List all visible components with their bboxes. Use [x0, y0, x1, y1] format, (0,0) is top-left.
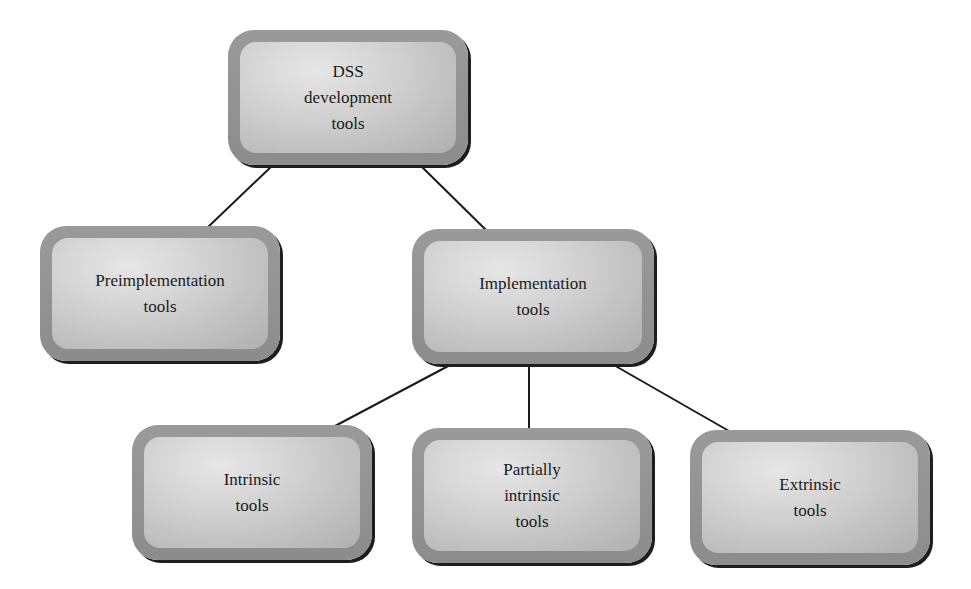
node-preimplementation-tools: Preimplementation tools [40, 226, 280, 361]
node-label: Extrinsic tools [702, 442, 918, 553]
edge-root-preimplementation [207, 165, 273, 228]
tree-diagram: DSS development tools Preimplementation … [0, 0, 971, 589]
label-line: tools [515, 509, 548, 535]
edge-implementation-extrinsic [612, 364, 729, 431]
node-extrinsic-tools: Extrinsic tools [690, 430, 930, 565]
label-line: development [304, 85, 392, 111]
node-intrinsic-tools: Intrinsic tools [132, 425, 372, 560]
label-line: tools [235, 493, 268, 519]
label-line: Extrinsic [779, 472, 840, 498]
node-label: Preimplementation tools [52, 238, 268, 349]
label-line: Preimplementation [95, 268, 224, 294]
node-dss-development-tools: DSS development tools [228, 30, 468, 165]
node-label: Partially intrinsic tools [424, 440, 640, 551]
label-line: Intrinsic [224, 467, 281, 493]
node-implementation-tools: Implementation tools [412, 229, 654, 364]
node-label: Intrinsic tools [144, 437, 360, 548]
label-line: intrinsic [504, 483, 560, 509]
node-label: DSS development tools [240, 42, 456, 153]
edge-implementation-intrinsic [335, 364, 452, 426]
label-line: tools [331, 111, 364, 137]
label-line: tools [143, 294, 176, 320]
node-label: Implementation tools [424, 241, 642, 352]
node-partially-intrinsic-tools: Partially intrinsic tools [412, 428, 652, 563]
label-line: DSS [332, 59, 363, 85]
label-line: tools [793, 498, 826, 524]
label-line: tools [516, 297, 549, 323]
edge-root-implementation [420, 165, 486, 230]
label-line: Implementation [479, 271, 587, 297]
label-line: Partially [503, 457, 561, 483]
